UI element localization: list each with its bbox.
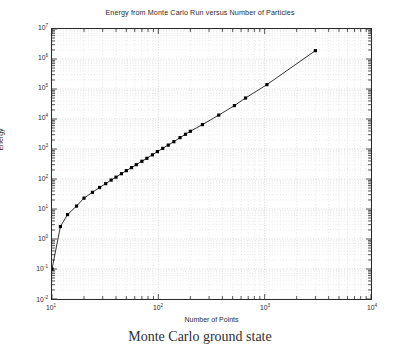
y-axis-label: Energy bbox=[0, 110, 4, 170]
figure-caption: Monte Carlo ground state bbox=[0, 329, 400, 345]
x-tick-label: 103 bbox=[257, 304, 273, 311]
x-tick-label: 101 bbox=[43, 304, 59, 311]
figure-container: Energy from Monte Carlo Run versus Numbe… bbox=[0, 0, 400, 359]
x-tick-label: 104 bbox=[364, 304, 380, 311]
x-tick-labels: 101102103104 bbox=[0, 0, 400, 359]
x-axis-label: Number of Points bbox=[51, 316, 372, 323]
x-tick-label: 102 bbox=[150, 304, 166, 311]
